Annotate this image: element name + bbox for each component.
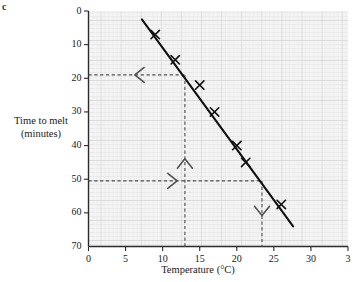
x-tick-label: 15 <box>189 253 211 264</box>
y-tick-label: 0 <box>62 5 82 16</box>
x-tick-label: 10 <box>152 253 174 264</box>
y-tick-label: 30 <box>62 105 82 116</box>
y-tick-label: 70 <box>62 240 82 251</box>
x-tick-label: 30 <box>300 253 322 264</box>
x-tick-label: 3 <box>337 253 355 264</box>
plot-background <box>89 11 349 247</box>
x-tick-label: 0 <box>78 253 100 264</box>
y-tick-label: 40 <box>62 139 82 150</box>
y-tick-label: 20 <box>62 72 82 83</box>
y-tick-label: 50 <box>62 173 82 184</box>
x-tick-label: 5 <box>115 253 137 264</box>
y-tick-label: 10 <box>62 38 82 49</box>
x-tick-label: 25 <box>263 253 285 264</box>
y-tick-label: 60 <box>62 206 82 217</box>
x-tick-label: 20 <box>226 253 248 264</box>
